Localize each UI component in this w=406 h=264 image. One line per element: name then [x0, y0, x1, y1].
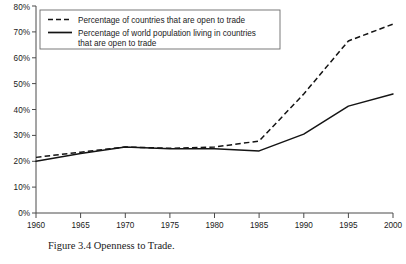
x-axis-tick-labels: 1960 1965 1970 1975 1980 1985 1990 1995 …: [27, 221, 403, 230]
x-tick-label-1985: 1985: [250, 221, 269, 230]
y-tick-label-10: 10%: [14, 183, 30, 192]
x-tick-label-1995: 1995: [339, 221, 358, 230]
y-tick-label-40: 40%: [14, 106, 30, 115]
x-tick-label-1980: 1980: [205, 221, 224, 230]
legend-label-population-line2: that are open to trade: [78, 39, 157, 48]
legend-label-countries: Percentage of countries that are open to…: [78, 16, 245, 25]
x-tick-label-2000: 2000: [384, 221, 403, 230]
y-tick-label-50: 50%: [14, 80, 30, 89]
y-tick-label-60: 60%: [14, 54, 30, 63]
y-tick-label-70: 70%: [14, 28, 30, 37]
y-axis-ticks: [32, 6, 36, 213]
line-chart: 0% 10% 20% 30% 40% 50% 60% 70% 80% 1960 …: [0, 0, 406, 264]
legend-label-population-line1: Percentage of world population living in…: [78, 29, 256, 38]
x-tick-label-1965: 1965: [71, 221, 90, 230]
x-tick-label-1990: 1990: [295, 221, 314, 230]
x-tick-label-1960: 1960: [27, 221, 46, 230]
x-tick-label-1970: 1970: [116, 221, 135, 230]
figure-openness-to-trade: 0% 10% 20% 30% 40% 50% 60% 70% 80% 1960 …: [0, 0, 406, 264]
y-axis-tick-labels: 0% 10% 20% 30% 40% 50% 60% 70% 80%: [14, 3, 30, 219]
y-tick-label-80: 80%: [14, 3, 30, 12]
y-tick-label-0: 0%: [18, 209, 30, 218]
y-tick-label-30: 30%: [14, 131, 30, 140]
y-tick-label-20: 20%: [14, 157, 30, 166]
legend: Percentage of countries that are open to…: [40, 10, 280, 49]
x-axis-ticks: [36, 213, 393, 218]
figure-caption: Figure 3.4 Openness to Trade.: [48, 240, 175, 251]
x-tick-label-1975: 1975: [161, 221, 180, 230]
